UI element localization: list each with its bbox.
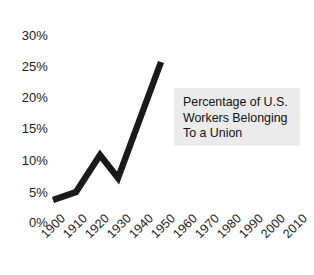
chart-title-line-2: Workers Belonging bbox=[183, 111, 300, 127]
chart-title-line-3: To a Union bbox=[183, 126, 300, 142]
union-membership-line bbox=[53, 62, 161, 200]
chart-title-box: Percentage of U.S. Workers Belonging To … bbox=[174, 88, 300, 146]
chart-title-line-1: Percentage of U.S. bbox=[183, 95, 300, 111]
union-membership-line-chart: 30% 25% 20% 15% 10% 5% 0% 1900 1910 1920… bbox=[0, 0, 314, 275]
